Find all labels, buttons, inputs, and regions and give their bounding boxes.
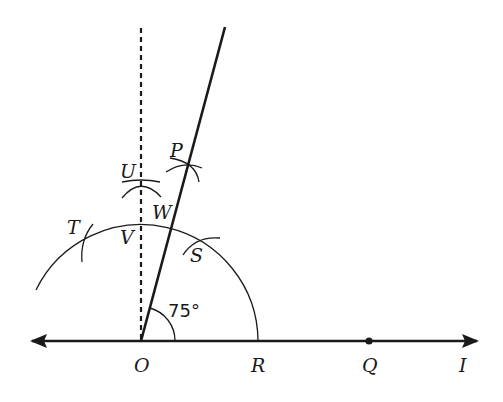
label-i: I [458,354,467,376]
label-t: T [67,216,81,238]
angle-label: 75° [168,300,200,321]
label-r: R [250,354,265,376]
label-q: Q [362,354,378,376]
ray-op [141,27,225,341]
line-i [30,334,479,348]
label-w: W [152,201,173,223]
arc-mark-p-1 [166,165,202,172]
label-s: S [190,244,203,266]
arc-mark-t [82,224,93,262]
label-u: U [120,160,137,182]
label-o: O [134,354,150,376]
label-p: P [169,139,184,161]
point-q-dot [365,337,372,344]
geometry-construction-diagram: O R Q I T V W S U P 75° [0,0,503,402]
label-v: V [120,226,136,248]
